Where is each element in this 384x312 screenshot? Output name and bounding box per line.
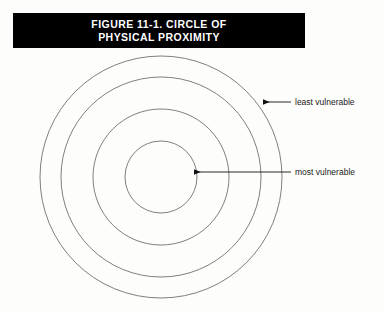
most-vulnerable-label: most vulnerable xyxy=(295,167,355,177)
least-vulnerable-label: least vulnerable xyxy=(295,97,355,107)
outermost-ring xyxy=(40,56,282,298)
outer-middle-ring xyxy=(61,77,261,277)
innermost-ring xyxy=(125,141,197,213)
concentric-circles-diagram xyxy=(0,0,384,312)
inner-middle-ring xyxy=(93,109,229,245)
figure-container: FIGURE 11-1. CIRCLE OF PHYSICAL PROXIMIT… xyxy=(0,0,384,312)
